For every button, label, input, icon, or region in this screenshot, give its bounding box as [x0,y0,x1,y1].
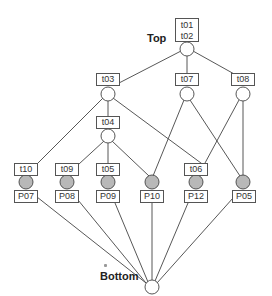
t08-label-box: t08 [231,73,255,86]
t07-label-box: t07 [175,73,199,86]
t05-label-box: t05 [96,163,120,176]
t07-node-circle [180,87,194,101]
p05-node-circle [236,175,250,189]
p10-node-circle [145,175,159,189]
lattice-diagram: Top t01 t02 t03 t07 t08 t04 t10 t09 t05 … [0,0,272,296]
p12-node-circle [189,175,203,189]
p05-label-box: P05 [232,190,256,203]
p08-label-box: P08 [55,190,79,203]
p09-label-box: P09 [96,190,120,203]
t10-label-box: t10 [14,163,38,176]
top-node-label-box: t01 t02 [175,18,199,42]
p12-label-box: P12 [184,190,208,203]
top-node-label-1: t01 [176,20,198,31]
t04-label-box: t04 [96,116,120,129]
bottom-label: Bottom [100,270,139,282]
p10-label-box: P10 [140,190,164,203]
p07-node-circle [19,175,33,189]
t06-label-box: t06 [184,163,208,176]
top-node-circle [180,42,194,56]
p07-label-box: P07 [14,190,38,203]
t09-label-box: t09 [55,163,79,176]
top-label: Top [147,32,166,44]
t03-label-box: t03 [96,73,120,86]
p08-node-circle [60,175,74,189]
t03-node-circle [101,87,115,101]
top-node-label-2: t02 [176,31,198,42]
bottom-node-circle [145,280,159,294]
edges-layer [0,0,272,296]
speck-mark [104,264,107,267]
t04-node-circle [101,129,115,143]
t08-node-circle [236,87,250,101]
p09-node-circle [101,175,115,189]
